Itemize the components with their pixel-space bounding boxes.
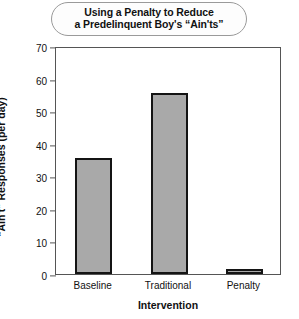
- chart-title-box: Using a Penalty to Reduce a Predelinquen…: [51, 2, 247, 36]
- y-axis-tick: [50, 80, 56, 81]
- y-axis-tick: [50, 113, 56, 114]
- x-axis-tick-label: Traditional: [145, 280, 191, 291]
- y-axis-tick-label: 20: [36, 205, 47, 216]
- x-axis-tick-label: Baseline: [73, 280, 111, 291]
- y-axis-tick-label: 0: [41, 271, 47, 282]
- bar-chart: Using a Penalty to Reduce a Predelinquen…: [0, 0, 299, 319]
- bar-penalty: [226, 269, 263, 274]
- y-axis-tick: [50, 47, 56, 48]
- x-axis-tick-label: Penalty: [227, 280, 260, 291]
- bar-baseline: [75, 158, 112, 274]
- x-axis-title: Intervention: [138, 299, 198, 311]
- y-axis-tick-label: 70: [36, 43, 47, 54]
- y-axis-tick-label: 10: [36, 238, 47, 249]
- y-axis-tick: [50, 275, 56, 276]
- bar-traditional: [151, 93, 188, 274]
- chart-title-line-2: a Predelinquent Boy's “Ain'ts”: [74, 19, 223, 31]
- y-axis-tick: [50, 243, 56, 244]
- plot-area: 010203040506070: [55, 47, 281, 275]
- y-axis-tick: [50, 210, 56, 211]
- y-axis-tick-label: 60: [36, 75, 47, 86]
- y-axis-tick: [50, 145, 56, 146]
- y-axis-tick-label: 30: [36, 173, 47, 184]
- y-axis-title: “Ain't” Responses (per day): [0, 97, 7, 237]
- y-axis-tick-label: 40: [36, 140, 47, 151]
- y-axis-tick: [50, 178, 56, 179]
- y-axis-tick-label: 50: [36, 108, 47, 119]
